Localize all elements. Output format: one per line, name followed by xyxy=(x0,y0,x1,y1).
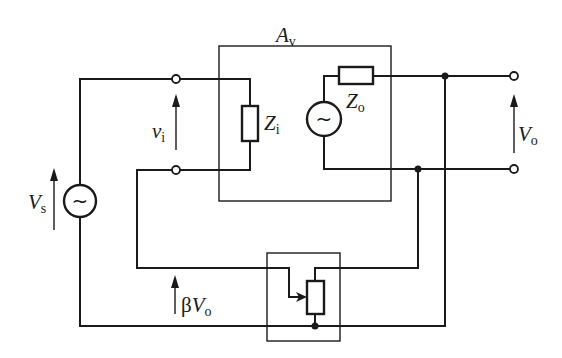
input-terminal-bottom xyxy=(172,166,180,174)
output-voltage-label: Vo xyxy=(518,122,538,148)
input-top-wire xyxy=(180,79,250,106)
internal-source-top-wire xyxy=(324,76,339,102)
circuit-diagram: Av Zi vi Zo ~ Vo ~ Vs βVo xyxy=(0,0,562,358)
output-impedance-label: Zo xyxy=(346,89,365,115)
input-terminal-top xyxy=(172,75,180,83)
arrowhead-icon xyxy=(510,94,518,107)
input-voltage-label: vi xyxy=(152,119,165,145)
output-bottom-wire xyxy=(324,136,510,169)
feedback-voltage-label: βVo xyxy=(181,293,212,319)
input-impedance-label: Zi xyxy=(264,111,280,137)
output-terminal-top xyxy=(510,72,518,80)
arrowhead-icon xyxy=(172,94,180,107)
feedback-potentiometer xyxy=(307,281,324,314)
output-terminal-bottom xyxy=(510,165,518,173)
input-bottom-wire xyxy=(180,141,250,170)
source-voltage-label: Vs xyxy=(28,190,46,216)
arrowhead-icon xyxy=(50,168,58,181)
input-impedance-resistor xyxy=(242,106,258,141)
internal-source-tilde: ~ xyxy=(316,107,333,131)
amplifier-label: Av xyxy=(274,23,296,49)
signal-source-tilde: ~ xyxy=(72,189,89,213)
feedback-output-bottom-wire xyxy=(315,169,418,281)
arrowhead-icon xyxy=(171,275,179,288)
output-impedance-resistor xyxy=(339,67,373,84)
